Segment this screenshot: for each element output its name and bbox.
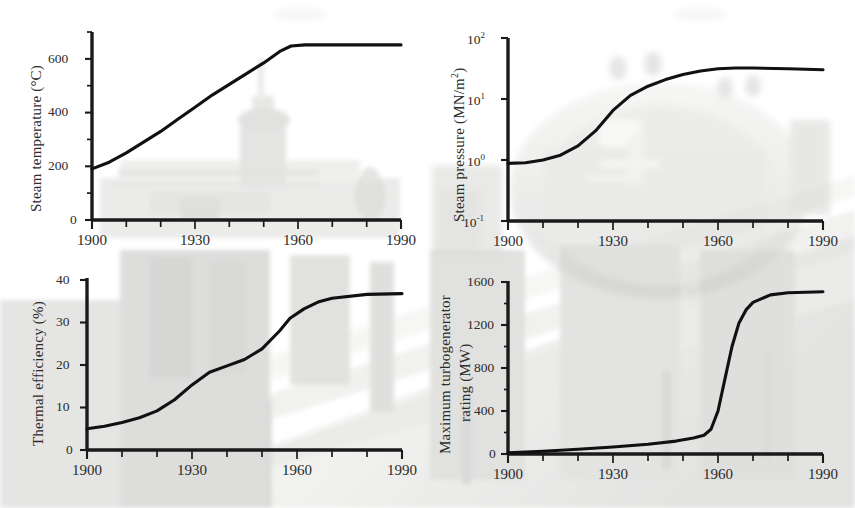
y-tick-label: 1600 bbox=[467, 274, 494, 290]
y-tick-label: 20 bbox=[56, 357, 70, 373]
y-tick-label: 10 bbox=[56, 399, 70, 415]
y-tick-label: 400 bbox=[48, 104, 68, 120]
y-axis-label-turbogenerator-line1: Maximum turbogenerator bbox=[437, 295, 454, 454]
y-tick-label: 102 bbox=[467, 30, 485, 48]
curve-steam-temperature bbox=[92, 45, 401, 169]
y-tick-label: 100 bbox=[467, 152, 485, 170]
y-tick-label: 400 bbox=[474, 403, 494, 419]
y-tick-label: 0 bbox=[66, 442, 73, 458]
y-tick-label: 800 bbox=[474, 360, 494, 376]
y-tick-label: 0 bbox=[70, 212, 77, 228]
y-tick-label: 10-1 bbox=[463, 213, 484, 231]
y-axis-label-steam-temperature: Steam temperature (°C) bbox=[28, 65, 45, 212]
x-tick-label: 1990 bbox=[796, 466, 850, 483]
curve-maximum-turbogenerator-rating bbox=[508, 292, 823, 453]
curve-steam-pressure bbox=[508, 68, 823, 163]
panel-steam-pressure: Steam pressure (MN/m2) 102 101 100 10-1 … bbox=[427, 0, 855, 254]
x-tick-label: 1960 bbox=[270, 462, 324, 479]
x-tick-label: 1990 bbox=[796, 233, 850, 250]
x-tick-label: 1930 bbox=[586, 233, 640, 250]
y-axis-label-steam-pressure: Steam pressure (MN/m2) bbox=[449, 68, 468, 222]
y-tick-label: 600 bbox=[48, 51, 68, 67]
y-tick-label: 101 bbox=[467, 91, 485, 109]
x-tick-label: 1960 bbox=[691, 466, 745, 483]
figure-container: Steam temperature (°C) 0 200 400 600 190… bbox=[0, 0, 855, 508]
y-tick-label: 30 bbox=[56, 314, 70, 330]
x-tick-label: 1990 bbox=[374, 232, 428, 249]
y-axis-label-turbogenerator-line2: rating (MW) bbox=[457, 344, 474, 422]
x-tick-label: 1960 bbox=[271, 232, 325, 249]
x-tick-label: 1930 bbox=[586, 466, 640, 483]
x-tick-label: 1900 bbox=[65, 232, 119, 249]
panel-thermal-efficiency: Thermal efficiency (%) 0 10 20 30 40 190… bbox=[0, 254, 427, 508]
x-tick-label: 1960 bbox=[691, 233, 745, 250]
y-axis-label-thermal-efficiency: Thermal efficiency (%) bbox=[30, 301, 47, 446]
panel-steam-temperature: Steam temperature (°C) 0 200 400 600 190… bbox=[0, 0, 427, 254]
x-tick-label: 1900 bbox=[481, 466, 535, 483]
x-tick-label: 1930 bbox=[168, 232, 222, 249]
y-tick-label: 40 bbox=[56, 272, 70, 288]
panel-maximum-turbogenerator-rating: Maximum turbogenerator rating (MW) 0 400… bbox=[427, 254, 855, 508]
y-tick-label: 0 bbox=[489, 446, 496, 462]
curve-thermal-efficiency bbox=[87, 294, 402, 429]
x-tick-label: 1900 bbox=[481, 233, 535, 250]
y-tick-label: 200 bbox=[48, 158, 68, 174]
x-tick-label: 1900 bbox=[60, 462, 114, 479]
y-tick-label: 1200 bbox=[467, 317, 494, 333]
x-tick-label: 1990 bbox=[375, 462, 429, 479]
x-tick-label: 1930 bbox=[165, 462, 219, 479]
